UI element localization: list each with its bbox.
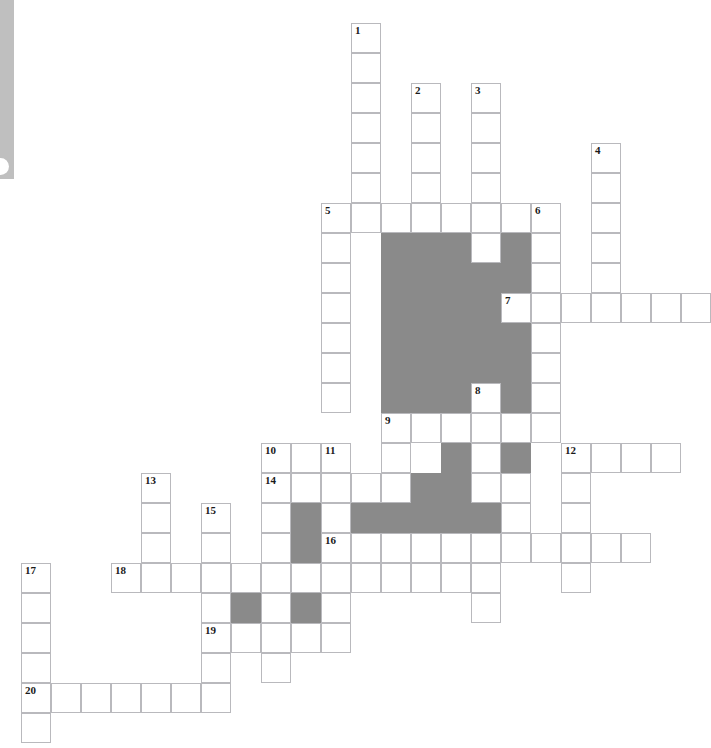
grid-cell[interactable]	[621, 533, 651, 563]
grid-cell[interactable]: 14	[261, 473, 291, 503]
grid-cell[interactable]	[411, 533, 441, 563]
grid-cell[interactable]	[291, 623, 321, 653]
grid-cell[interactable]	[321, 233, 351, 263]
grid-cell[interactable]	[141, 563, 171, 593]
grid-cell[interactable]	[471, 173, 501, 203]
grid-cell[interactable]	[21, 593, 51, 623]
grid-cell[interactable]	[261, 623, 291, 653]
grid-cell[interactable]	[201, 563, 231, 593]
grid-cell[interactable]	[591, 233, 621, 263]
grid-cell[interactable]	[381, 533, 411, 563]
grid-cell[interactable]: 7	[501, 293, 531, 323]
grid-cell[interactable]	[201, 683, 231, 713]
grid-cell[interactable]	[411, 113, 441, 143]
grid-cell[interactable]	[201, 593, 231, 623]
grid-cell[interactable]: 16	[321, 533, 351, 563]
grid-cell[interactable]	[321, 263, 351, 293]
grid-cell[interactable]	[561, 533, 591, 563]
grid-cell[interactable]: 15	[201, 503, 231, 533]
grid-cell[interactable]: 3	[471, 83, 501, 113]
grid-cell[interactable]: 8	[471, 383, 501, 413]
grid-cell[interactable]: 9	[381, 413, 411, 443]
grid-cell[interactable]	[111, 683, 141, 713]
grid-cell[interactable]	[351, 173, 381, 203]
grid-cell[interactable]	[531, 353, 561, 383]
grid-cell[interactable]: 5	[321, 203, 351, 233]
grid-cell[interactable]	[381, 203, 411, 233]
grid-cell[interactable]	[321, 593, 351, 623]
grid-cell[interactable]	[411, 413, 441, 443]
grid-cell[interactable]	[81, 683, 111, 713]
grid-cell[interactable]: 2	[411, 83, 441, 113]
grid-cell[interactable]	[501, 503, 531, 533]
grid-cell[interactable]	[381, 473, 411, 503]
grid-cell[interactable]	[531, 383, 561, 413]
grid-cell[interactable]	[501, 413, 531, 443]
grid-cell[interactable]	[51, 683, 81, 713]
grid-cell[interactable]	[471, 113, 501, 143]
grid-cell[interactable]	[531, 263, 561, 293]
grid-cell[interactable]	[441, 413, 471, 443]
grid-cell[interactable]	[261, 653, 291, 683]
grid-cell[interactable]: 10	[261, 443, 291, 473]
grid-cell[interactable]	[351, 473, 381, 503]
grid-cell[interactable]	[21, 653, 51, 683]
grid-cell[interactable]	[381, 443, 411, 473]
grid-cell[interactable]	[21, 623, 51, 653]
grid-cell[interactable]	[411, 173, 441, 203]
grid-cell[interactable]	[591, 293, 621, 323]
grid-cell[interactable]: 20	[21, 683, 51, 713]
grid-cell[interactable]	[501, 203, 531, 233]
grid-cell[interactable]	[531, 533, 561, 563]
grid-cell[interactable]	[411, 563, 441, 593]
grid-cell[interactable]	[531, 323, 561, 353]
grid-cell[interactable]	[201, 653, 231, 683]
grid-cell[interactable]	[261, 533, 291, 563]
grid-cell[interactable]	[471, 593, 501, 623]
grid-cell[interactable]	[231, 623, 261, 653]
grid-cell[interactable]	[141, 683, 171, 713]
grid-cell[interactable]	[411, 143, 441, 173]
grid-cell[interactable]	[231, 563, 261, 593]
grid-cell[interactable]	[321, 503, 351, 533]
grid-cell[interactable]: 6	[531, 203, 561, 233]
grid-cell[interactable]	[471, 143, 501, 173]
grid-cell[interactable]	[561, 503, 591, 533]
grid-cell[interactable]	[351, 563, 381, 593]
grid-cell[interactable]	[201, 533, 231, 563]
grid-cell[interactable]	[651, 293, 681, 323]
grid-cell[interactable]	[561, 563, 591, 593]
grid-cell[interactable]	[381, 563, 411, 593]
grid-cell[interactable]	[291, 563, 321, 593]
grid-cell[interactable]: 4	[591, 143, 621, 173]
grid-cell[interactable]	[531, 233, 561, 263]
grid-cell[interactable]	[171, 683, 201, 713]
grid-cell[interactable]	[351, 83, 381, 113]
grid-cell[interactable]	[471, 443, 501, 473]
grid-cell[interactable]	[441, 533, 471, 563]
grid-cell[interactable]	[141, 503, 171, 533]
grid-cell[interactable]	[471, 563, 501, 593]
grid-cell[interactable]	[471, 533, 501, 563]
grid-cell[interactable]	[591, 173, 621, 203]
grid-cell[interactable]	[321, 473, 351, 503]
grid-cell[interactable]	[591, 263, 621, 293]
grid-cell[interactable]	[141, 533, 171, 563]
grid-cell[interactable]	[321, 383, 351, 413]
grid-cell[interactable]	[411, 203, 441, 233]
grid-cell[interactable]	[321, 623, 351, 653]
grid-cell[interactable]	[621, 443, 651, 473]
grid-cell[interactable]	[351, 113, 381, 143]
grid-cell[interactable]: 19	[201, 623, 231, 653]
grid-cell[interactable]	[261, 593, 291, 623]
grid-cell[interactable]	[291, 443, 321, 473]
grid-cell[interactable]	[681, 293, 711, 323]
grid-cell[interactable]: 17	[21, 563, 51, 593]
grid-cell[interactable]: 13	[141, 473, 171, 503]
grid-cell[interactable]	[621, 293, 651, 323]
grid-cell[interactable]	[441, 563, 471, 593]
grid-cell[interactable]	[321, 323, 351, 353]
grid-cell[interactable]: 12	[561, 443, 591, 473]
grid-cell[interactable]	[321, 563, 351, 593]
grid-cell[interactable]	[351, 53, 381, 83]
